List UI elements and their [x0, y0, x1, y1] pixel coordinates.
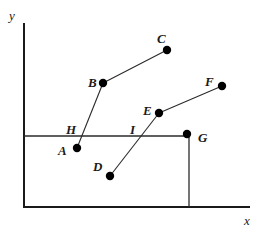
markers-group: HI — [65, 122, 136, 137]
points-group: ABCDEFG — [57, 31, 226, 180]
point-e — [155, 109, 163, 117]
line-segments-diagram: y x ABCDEFG HI — [0, 0, 265, 235]
y-axis-label: y — [7, 8, 15, 23]
point-d — [106, 172, 114, 180]
segment-ab — [77, 83, 103, 148]
segment-bc — [103, 50, 167, 83]
marker-label-i: I — [129, 122, 136, 137]
point-a — [73, 144, 81, 152]
point-label-a: A — [57, 143, 67, 158]
segment-ef — [159, 86, 222, 113]
point-label-g: G — [198, 130, 208, 145]
point-g — [183, 130, 191, 138]
marker-label-h: H — [65, 122, 77, 137]
point-label-e: E — [142, 103, 152, 118]
point-label-d: D — [92, 159, 103, 174]
point-label-f: F — [204, 74, 214, 89]
point-b — [99, 79, 107, 87]
point-label-c: C — [157, 31, 166, 46]
point-c — [163, 46, 171, 54]
point-label-b: B — [87, 75, 97, 90]
x-axis-label: x — [243, 213, 250, 228]
point-f — [218, 82, 226, 90]
